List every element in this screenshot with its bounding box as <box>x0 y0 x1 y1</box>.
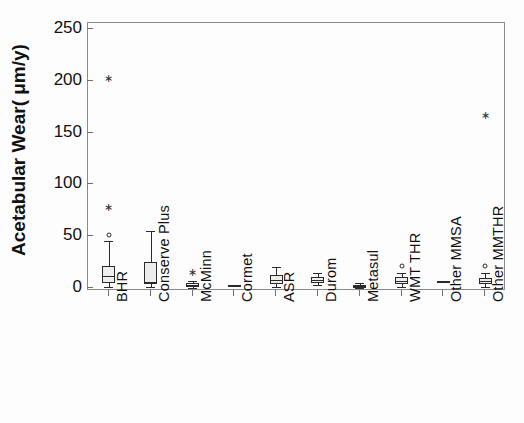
box-plot-upper-cap <box>313 273 322 274</box>
box-plot-outlier-star: ∗ <box>481 113 490 117</box>
box-plot-upper-whisker <box>276 267 277 274</box>
box-plot-upper-cap <box>355 283 364 284</box>
box-plot-upper-cap <box>397 273 406 274</box>
box-plot-lower-cap <box>397 287 406 288</box>
box-plot-outlier-circle <box>399 264 404 269</box>
box-plot-upper-cap <box>481 273 490 274</box>
y-axis-tick-labels: 050100150200250 <box>38 22 82 290</box>
box-plot-outlier-star: ∗ <box>188 270 197 274</box>
x-axis-tick-label: Conserve Plus <box>156 205 172 302</box>
x-axis-tick-label: ASR <box>281 272 297 302</box>
box-plot-lower-cap <box>355 288 364 289</box>
box-plot-lower-cap <box>481 287 490 288</box>
y-axis-tick-mark <box>87 28 93 29</box>
boxplot-figure: Acetabular Wear( μm/y) 050100150200250 ∗… <box>0 0 524 423</box>
plot-area: ∗∗∗∗ <box>87 22 505 290</box>
x-axis-tick-mark <box>108 290 109 296</box>
y-axis-tick-label: 0 <box>73 277 82 297</box>
y-axis-tick-mark <box>87 287 93 288</box>
box-plot-lower-cap <box>272 287 281 288</box>
y-axis-tick-label: 100 <box>54 173 82 193</box>
box-plot-lower-cap <box>104 287 113 288</box>
y-axis-tick-label: 250 <box>54 18 82 38</box>
box-plot-lower-cap <box>188 288 197 289</box>
box-plot-upper-cap <box>272 267 281 268</box>
x-axis-tick-mark <box>484 290 485 296</box>
x-axis-tick-mark <box>359 290 360 296</box>
box-plot-upper-whisker <box>151 231 152 262</box>
plot-content: ∗∗∗∗ <box>88 23 504 289</box>
box-plot-upper-cap <box>146 231 155 232</box>
box-plot-upper-cap <box>104 241 113 242</box>
x-axis-tick-label: Durom <box>323 257 339 302</box>
x-axis-tick-mark <box>275 290 276 296</box>
x-axis-tick-mark <box>442 290 443 296</box>
y-axis-tick-mark <box>87 235 93 236</box>
y-axis-tick-mark <box>87 183 93 184</box>
x-axis-tick-label: BHR <box>114 271 130 302</box>
box-plot-lower-cap <box>313 285 322 286</box>
x-axis-tick-label: Metasul <box>365 250 381 302</box>
y-axis-tick-mark <box>87 80 93 81</box>
box-plot-upper-whisker <box>109 241 110 266</box>
x-axis-tick-label: Cormet <box>239 253 255 302</box>
x-axis-tick-mark <box>192 290 193 296</box>
box-plot-outlier-star: ∗ <box>104 76 113 80</box>
x-axis-tick-label: Other MMTHR <box>490 206 506 302</box>
box-plot-outlier-circle <box>106 233 111 238</box>
x-axis-tick-mark <box>401 290 402 296</box>
x-axis-tick-mark <box>150 290 151 296</box>
x-axis-tick-mark <box>317 290 318 296</box>
x-axis-tick-mark <box>233 290 234 296</box>
y-axis-tick-label: 150 <box>54 122 82 142</box>
y-axis-tick-label: 200 <box>54 70 82 90</box>
y-axis-tick-mark <box>87 132 93 133</box>
box-plot-outlier-star: ∗ <box>104 205 113 209</box>
x-axis-tick-label: WMT THR <box>407 233 423 302</box>
box-plot-lower-cap <box>146 287 155 288</box>
x-axis-tick-label: Other MMSA <box>448 216 464 302</box>
y-axis-title: Acetabular Wear( μm/y) <box>2 0 36 300</box>
box-plot-outlier-circle <box>483 264 488 269</box>
box-plot-upper-cap <box>188 281 197 282</box>
x-axis-tick-label: McMinn <box>198 250 214 302</box>
y-axis-tick-label: 50 <box>63 225 82 245</box>
